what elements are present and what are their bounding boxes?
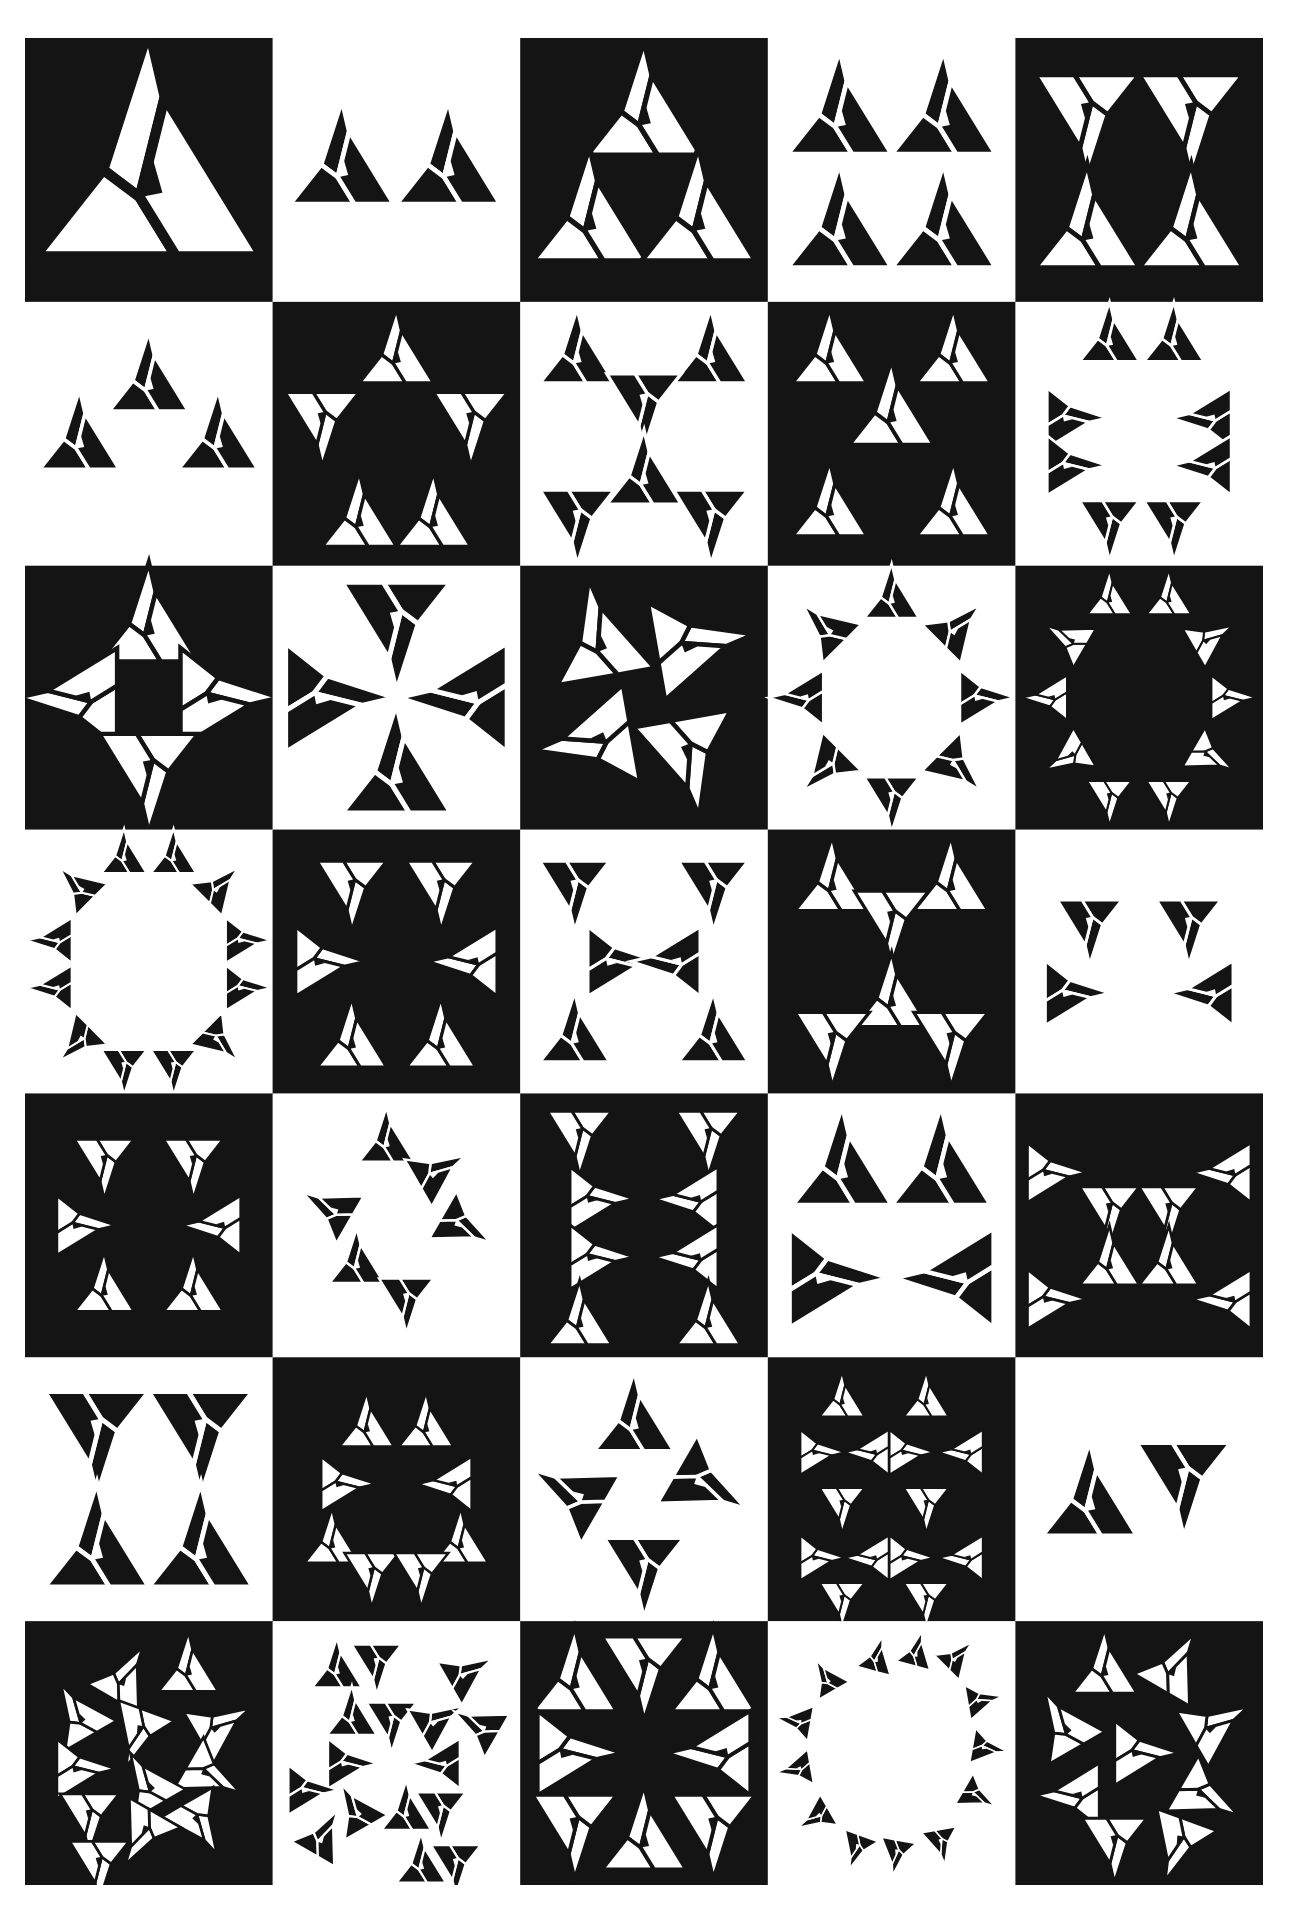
pattern-cell-star-eight bbox=[520, 1621, 768, 1885]
pattern-cell-pentagon-star bbox=[273, 302, 521, 566]
pattern-cell-hourglass-quad-dark bbox=[25, 1357, 273, 1621]
pattern-cell-arch-four bbox=[1015, 830, 1263, 1094]
pattern-cell-rotated-nine bbox=[1015, 1618, 1263, 1885]
pattern-cell-octagon-ring bbox=[768, 564, 1016, 832]
pattern-plate-svg bbox=[25, 38, 1263, 1885]
pattern-cell-tilted-ring bbox=[768, 1621, 1016, 1885]
pattern-cell-hexagon-ring bbox=[1015, 302, 1263, 566]
pattern-cell-arch-of-three bbox=[25, 302, 273, 566]
pattern-cell-hex-spread bbox=[520, 302, 768, 566]
pattern-cell-single-large bbox=[25, 38, 273, 302]
pattern-cell-pair-offset bbox=[1015, 1357, 1263, 1621]
pattern-cell-twelve-ring-outward bbox=[25, 828, 273, 1094]
pattern-cell-lattice-eight bbox=[1015, 1093, 1263, 1357]
pattern-cell-square-ring bbox=[25, 562, 280, 833]
pattern-cell-bow-quad bbox=[768, 1093, 1016, 1357]
pattern-cell-crown-ring bbox=[273, 1357, 521, 1621]
pattern-cell-dodecagon-ring bbox=[1015, 566, 1263, 830]
pattern-cell-twelve-lattice bbox=[768, 1357, 1016, 1627]
pattern-cell-scattered-pinwheel bbox=[273, 1621, 521, 1885]
pattern-cell-hourglass-quad bbox=[1015, 38, 1263, 302]
pattern-cell-cross-pinwheel bbox=[273, 566, 521, 830]
pattern-cell-triad-spread bbox=[768, 302, 1016, 566]
pattern-cell-column-pairs bbox=[520, 1093, 768, 1357]
pattern-cell-double-triad bbox=[768, 830, 1016, 1094]
pattern-cell-pair bbox=[273, 38, 521, 302]
pattern-cell-swirl-twelve bbox=[25, 1621, 273, 1885]
pattern-cell-spiral-six bbox=[273, 1093, 521, 1357]
pattern-grid bbox=[25, 38, 1263, 1885]
pattern-cell-rotated-quad bbox=[520, 566, 768, 830]
pattern-cell-diamond-four bbox=[512, 1357, 768, 1621]
pattern-cell-bracket-pairs bbox=[520, 830, 768, 1094]
pattern-cell-quad bbox=[768, 38, 1016, 302]
pattern-cell-hexagon-pairs bbox=[273, 830, 521, 1094]
pattern-cell-triad bbox=[520, 38, 768, 302]
pattern-cell-bracket-ring bbox=[25, 1093, 273, 1357]
